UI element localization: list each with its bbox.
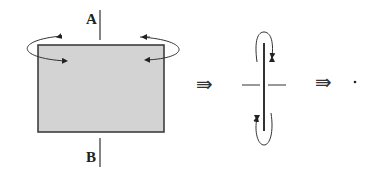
final-point: [354, 81, 357, 84]
label-a: A: [86, 12, 97, 27]
implies-arrow-1: ⇛: [196, 74, 213, 94]
implies-arrow-2: ⇛: [315, 72, 332, 92]
label-b: B: [86, 150, 96, 165]
rotating-plate: [38, 45, 164, 132]
